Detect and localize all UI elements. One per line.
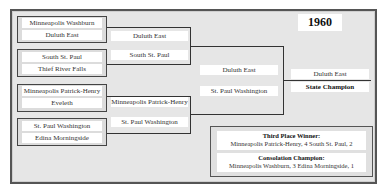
round1-team: St. Paul Washington	[22, 121, 102, 131]
year-label: 1960	[298, 14, 342, 31]
round2-team: South St. Paul	[111, 50, 188, 60]
bracket-line	[107, 27, 190, 28]
round1-team: Minneapolis Patrick-Henry	[22, 86, 102, 96]
info-box: Third Place Winner: Minneapolis Patrick-…	[210, 126, 373, 177]
state-champion-label: State Champion	[291, 82, 369, 92]
champion-team: Duluth East	[291, 69, 369, 79]
consolation-title: Consolation Champion:	[217, 154, 366, 162]
round1-team: Thief River Falls	[22, 64, 102, 74]
round1-team: South St. Paul	[22, 52, 102, 62]
bracket-line	[107, 64, 190, 65]
round2-team: St. Paul Washington	[111, 117, 188, 127]
round1-team: Eveleth	[22, 98, 102, 108]
round2-team: Minneapolis Patrick-Henry	[111, 97, 188, 107]
bracket-line	[107, 133, 190, 134]
third-place-row: Third Place Winner: Minneapolis Patrick-…	[217, 131, 366, 150]
round1-team: Edina Morningside	[22, 133, 102, 143]
third-place-title: Third Place Winner:	[217, 132, 366, 140]
consolation-row: Consolation Champion: Minneapolis Washbu…	[217, 153, 366, 172]
round1-team: Duluth East	[22, 30, 102, 40]
bracket-line	[190, 96, 191, 134]
bracket-line	[283, 80, 371, 81]
bracket-line	[190, 114, 283, 115]
semifinal-team: Duluth East	[200, 65, 278, 75]
round2-team: Duluth East	[111, 31, 188, 41]
bracket-line	[190, 46, 283, 47]
third-place-result: Minneapolis Patrick-Henry, 4 South St. P…	[217, 140, 366, 148]
consolation-result: Minneapolis Washburn, 3 Edina Morningsid…	[217, 162, 366, 170]
round1-team: Minneapolis Washburn	[22, 18, 102, 28]
semifinal-team: St. Paul Washington	[200, 86, 278, 96]
